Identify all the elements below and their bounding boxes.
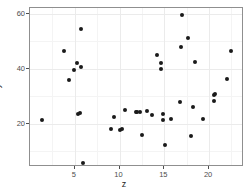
data-point: [72, 68, 76, 72]
x-axis-tick: [119, 166, 120, 169]
data-point: [109, 127, 113, 131]
data-point: [140, 133, 144, 137]
gridline-major-vertical: [75, 8, 76, 165]
x-axis-tick-label: 20: [204, 170, 212, 179]
gridline-major-vertical: [209, 8, 210, 165]
data-point: [159, 67, 163, 71]
data-point: [212, 99, 216, 103]
data-point: [79, 65, 83, 69]
x-axis-tick: [74, 166, 75, 169]
data-point: [79, 27, 83, 31]
gridline-major-horizontal: [30, 69, 242, 70]
x-axis-tick-label: 5: [72, 170, 76, 179]
data-point: [179, 45, 183, 49]
data-point: [180, 13, 184, 17]
plot-panel: [29, 7, 243, 166]
gridline-minor-vertical: [52, 8, 53, 165]
data-point: [225, 77, 229, 81]
x-axis-tick-label: 10: [114, 170, 122, 179]
y-axis-tick-label: 60: [17, 8, 25, 17]
gridline-minor-horizontal: [30, 96, 242, 97]
gridline-major-vertical: [164, 8, 165, 165]
data-point: [186, 36, 190, 40]
y-axis-tick: [26, 123, 29, 124]
data-point: [229, 49, 233, 53]
data-point: [161, 112, 165, 116]
gridline-major-vertical: [120, 8, 121, 165]
data-point: [67, 78, 71, 82]
data-point: [123, 108, 127, 112]
gridline-minor-vertical: [142, 8, 143, 165]
data-point: [75, 61, 79, 65]
data-point: [201, 117, 205, 121]
data-point: [155, 53, 159, 57]
data-point: [120, 127, 124, 131]
data-point: [161, 118, 165, 122]
data-point: [213, 92, 217, 96]
x-axis-tick: [208, 166, 209, 169]
gridline-minor-vertical: [231, 8, 232, 165]
scatter-plot-figure: y z 2040605101520: [0, 0, 248, 191]
data-point: [150, 113, 154, 117]
data-point: [112, 115, 116, 119]
y-axis-tick-label: 20: [17, 118, 25, 127]
gridline-major-horizontal: [30, 14, 242, 15]
data-point: [169, 117, 173, 121]
data-point: [138, 110, 142, 114]
data-point: [145, 109, 149, 113]
x-axis-title: z: [0, 179, 248, 189]
gridline-minor-horizontal: [30, 151, 242, 152]
x-axis-tick-label: 15: [159, 170, 167, 179]
y-axis-tick-label: 40: [17, 63, 25, 72]
gridline-minor-horizontal: [30, 41, 242, 42]
y-axis-title: y: [0, 84, 2, 89]
gridline-major-horizontal: [30, 124, 242, 125]
data-point: [163, 143, 167, 147]
y-axis-tick: [26, 13, 29, 14]
y-axis-tick: [26, 68, 29, 69]
gridline-minor-vertical: [187, 8, 188, 165]
data-point: [189, 134, 193, 138]
gridline-minor-vertical: [97, 8, 98, 165]
x-axis-tick: [163, 166, 164, 169]
data-point: [40, 118, 44, 122]
data-point: [178, 100, 182, 104]
data-point: [62, 49, 66, 53]
data-point: [191, 105, 195, 109]
data-point: [159, 61, 163, 65]
data-point: [81, 161, 85, 165]
data-point: [193, 60, 197, 64]
data-point: [78, 111, 82, 115]
